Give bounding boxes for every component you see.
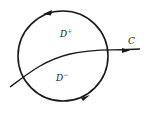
region-label-d-minus: D− (56, 72, 68, 83)
curve-label-c: C (128, 37, 135, 46)
curve-c (10, 49, 140, 87)
curve-c-arrow-icon (122, 48, 130, 53)
diagram-canvas (0, 0, 149, 113)
region-label-d-plus: D+ (60, 28, 72, 39)
